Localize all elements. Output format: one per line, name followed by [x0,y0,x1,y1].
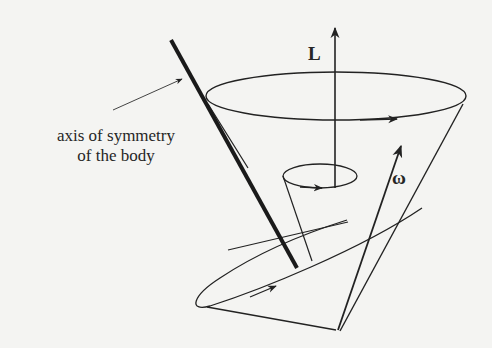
small-cone-rim [283,164,357,188]
space-cone-right-side [340,104,463,331]
precession-diagram [0,0,492,348]
label-pointer [113,79,182,110]
body-cone-rim [196,208,422,307]
body-cone-inner-chord [228,222,348,250]
body-cone-bottom-side [207,307,336,330]
space-cone-rim [206,72,466,120]
small-cone-rotation-arrow [300,187,322,188]
space-cone-left-side [208,104,248,168]
symmetry-axis-label-line2: of the body [36,146,196,166]
omega-label: ω [392,168,406,188]
symmetry-axis-label: axis of symmetry of the body [36,126,196,166]
space-cone-rotation-arrow [360,119,397,120]
symmetry-axis-label-line1: axis of symmetry [36,126,196,146]
L-label: L [308,44,321,64]
